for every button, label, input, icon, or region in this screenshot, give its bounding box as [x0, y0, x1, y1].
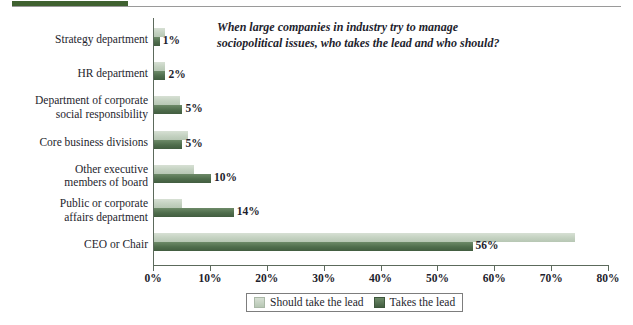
axis-tick: [494, 266, 495, 271]
bar-chart: When large companies in industry try to …: [0, 12, 633, 325]
category-label: Public or corporate affairs department: [0, 197, 148, 224]
bar-segment[interactable]: [154, 140, 182, 149]
axis-tick: [437, 266, 438, 271]
bar-row: Other executive members of board10%: [0, 162, 633, 194]
legend-item-should-take-the-lead[interactable]: Should take the lead: [254, 296, 364, 308]
bar-segment[interactable]: [154, 199, 182, 208]
bar-segment[interactable]: [154, 131, 188, 140]
bar-segment[interactable]: [154, 96, 180, 105]
category-label: HR department: [0, 67, 148, 81]
bar-row: Strategy department1%: [0, 25, 633, 57]
bar-segment[interactable]: [154, 233, 575, 242]
axis-tick-label: 10%: [188, 272, 232, 284]
bar-row: Core business divisions5%: [0, 128, 633, 160]
category-label: Strategy department: [0, 33, 148, 47]
bar-segment[interactable]: [154, 105, 182, 114]
bar-row: Public or corporate affairs department14…: [0, 196, 633, 228]
y-axis-top-cap: [153, 18, 154, 23]
axis-tick: [551, 266, 552, 271]
axis-tick-label: 70%: [529, 272, 573, 284]
legend-label: Takes the lead: [390, 296, 456, 308]
axis-tick: [267, 266, 268, 271]
axis-tick: [324, 266, 325, 271]
axis-tick: [608, 266, 609, 271]
bar-segment[interactable]: [154, 242, 473, 251]
bar-value-label: 2%: [168, 68, 185, 80]
bar-row: CEO or Chair56%: [0, 230, 633, 262]
axis-tick: [210, 266, 211, 271]
bar-row: Department of corporate social responsib…: [0, 93, 633, 125]
axis-tick-label: 80%: [586, 272, 630, 284]
chart-legend: Should take the lead Takes the lead: [246, 293, 463, 312]
bar-value-label: 5%: [185, 102, 202, 114]
bar-segment[interactable]: [154, 62, 165, 71]
bar-row: HR department2%: [0, 59, 633, 91]
bar-segment[interactable]: [154, 165, 194, 174]
bar-value-label: 14%: [237, 205, 260, 217]
bar-segment[interactable]: [154, 208, 234, 217]
axis-tick-label: 30%: [302, 272, 346, 284]
axis-tick: [381, 266, 382, 271]
bar-value-label: 1%: [163, 34, 180, 46]
legend-item-takes-the-lead[interactable]: Takes the lead: [374, 296, 456, 308]
category-label: CEO or Chair: [0, 238, 148, 252]
axis-tick-label: 0%: [131, 272, 175, 284]
bar-segment[interactable]: [154, 174, 211, 183]
bar-value-label: 5%: [185, 137, 202, 149]
bar-value-label: 56%: [476, 239, 499, 251]
bar-segment[interactable]: [154, 71, 165, 80]
category-label: Core business divisions: [0, 136, 148, 150]
axis-tick-label: 40%: [359, 272, 403, 284]
category-label: Department of corporate social responsib…: [0, 94, 148, 121]
category-label: Other executive members of board: [0, 163, 148, 190]
axis-tick-label: 50%: [415, 272, 459, 284]
bar-value-label: 10%: [214, 171, 237, 183]
legend-label: Should take the lead: [270, 296, 364, 308]
dark-green-swatch-icon: [374, 297, 385, 308]
axis-tick: [153, 266, 154, 271]
header-rule: [0, 0, 633, 12]
light-green-swatch-icon: [254, 297, 265, 308]
axis-tick-label: 20%: [245, 272, 289, 284]
bar-segment[interactable]: [154, 37, 160, 46]
header-hairline: [12, 6, 621, 7]
axis-tick-label: 60%: [472, 272, 516, 284]
